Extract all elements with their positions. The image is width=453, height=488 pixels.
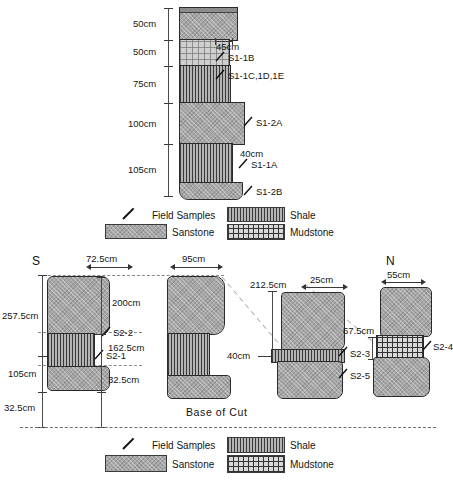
- legend-label-shale: Shale: [290, 211, 316, 221]
- legend-label-sandstone: Sanstone: [172, 460, 214, 470]
- top-scale-tick: [164, 66, 173, 67]
- legend-label-mudstone: Mudstone: [290, 460, 334, 470]
- legend-top: Field Samples Sanstone Shale Mudstone: [0, 205, 446, 251]
- column-4-height-label: 67.5cm: [343, 326, 374, 336]
- mudstone-swatch-icon: [228, 456, 284, 472]
- top-scale-label-3: 75cm: [133, 79, 156, 89]
- top-scale-tick: [164, 144, 173, 145]
- legend-label-sandstone-text: Sanstone: [172, 228, 214, 238]
- base-of-cut-line: [20, 427, 436, 428]
- legend-label-mudstone: Mudstone: [290, 228, 334, 238]
- shale-swatch-icon: [228, 438, 284, 452]
- top-sample-label-s1-1c: S1-1C,1D,1E: [228, 71, 284, 81]
- top-scale-label-5: 105cm: [128, 165, 157, 175]
- slash-tick-icon: [122, 437, 136, 451]
- column-4-width-arrow-right: [421, 279, 426, 285]
- legend-label-shale: Shale: [290, 441, 316, 451]
- top-annotation-40cm: 40cm: [240, 149, 263, 159]
- top-scale-label-1: 50cm: [133, 19, 156, 29]
- legend-bottom: Field Samples Sanstone Shale Mudstone: [0, 435, 446, 488]
- top-sample-leader-s1-1a: [238, 159, 250, 169]
- top-scale-tick: [164, 196, 173, 197]
- top-sample-label-s1-1a: S1-1A: [251, 160, 277, 170]
- top-bed-crust: [180, 8, 237, 13]
- top-bed-sandstone-mid: [180, 103, 244, 144]
- column-4-bed-sandstone-basal: [374, 358, 429, 396]
- top-sample-leader-s1-1b: [215, 52, 227, 62]
- sandstone-swatch-icon: [106, 456, 166, 471]
- column-4-width-arrow-left: [381, 279, 386, 285]
- top-scale-label-2: 50cm: [133, 47, 156, 57]
- top-scale-tick: [164, 103, 173, 104]
- column-4-scale-tick: [368, 337, 377, 338]
- top-sample-label-s1-2a: S1-2A: [256, 118, 282, 128]
- column-4-scale-axis: [372, 337, 373, 359]
- top-annotation-45cm: 45cm: [216, 42, 239, 52]
- top-scale-tick: [164, 8, 173, 9]
- base-of-cut-label: Base of Cut: [186, 407, 247, 418]
- top-sample-label-s1-1b: S1-1B: [228, 53, 254, 63]
- mudstone-swatch-icon: [228, 225, 284, 239]
- legend-label-field-samples: Field Samples: [152, 441, 215, 451]
- bottom-section: S N 257.5cm 105cm 32.5cm: [0, 255, 446, 435]
- slash-tick-icon: [122, 207, 136, 221]
- column-4-bed-mudstone: [377, 336, 423, 358]
- top-sample-leader-s1-2b: [243, 186, 255, 196]
- shale-swatch-icon: [228, 208, 284, 221]
- column-4-bed-sandstone-upper: [381, 288, 431, 336]
- sandstone-swatch-icon: [106, 225, 166, 238]
- top-sample-label-s1-2b: S1-2B: [256, 187, 282, 197]
- top-scale-label-4: 100cm: [128, 119, 157, 129]
- column-4-sample-label-s2-4: S2-4: [433, 342, 453, 352]
- top-scale-tick: [164, 40, 173, 41]
- column-4-width-rule: [383, 282, 423, 283]
- top-section: 50cm 50cm 75cm 100cm 105cm 45cm S1-1B: [0, 0, 446, 205]
- legend-label-field-samples: Field Samples: [152, 211, 215, 221]
- top-scale-axis: [168, 8, 169, 196]
- top-sample-leader-s1-2a: [243, 117, 255, 127]
- top-bed-shale-lower: [180, 144, 232, 183]
- top-bed-sandstone-basal: [180, 183, 242, 199]
- top-sample-leader-s1-1c: [215, 70, 227, 80]
- column-4-width-label: 55cm: [387, 270, 410, 280]
